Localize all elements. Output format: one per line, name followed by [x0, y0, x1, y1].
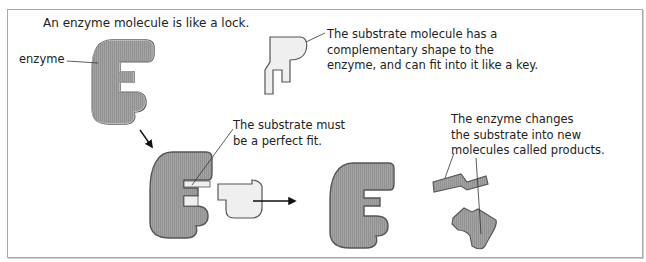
substrate-leader-line	[306, 33, 325, 42]
substrate-line-1: The substrate molecule has a	[327, 27, 538, 43]
enzyme-label: enzyme	[19, 52, 64, 68]
diagram-title: An enzyme molecule is like a lock.	[43, 16, 249, 32]
product-shape-2	[452, 208, 496, 249]
perfect-fit-description: The substrate must be a perfect fit.	[233, 118, 345, 149]
products-line-2: the substrate into new	[451, 128, 605, 144]
enzyme-substrate-complex	[150, 152, 262, 238]
enzyme-shape-1	[92, 40, 154, 124]
enzyme-shape-2	[330, 163, 394, 248]
substrate-description: The substrate molecule has a complementa…	[327, 27, 538, 74]
substrate-line-3: enzyme, and can fit into it like a key.	[327, 58, 538, 74]
perfect-fit-line-2: be a perfect fit.	[233, 134, 345, 150]
arrow-diagonal-icon	[140, 130, 152, 147]
substrate-line-2: complementary shape to the	[327, 43, 538, 59]
products-line-3: molecules called products.	[451, 143, 605, 159]
perfect-fit-line-1: The substrate must	[233, 118, 345, 134]
product-shape-1	[433, 174, 488, 192]
products-description: The enzyme changes the substrate into ne…	[451, 112, 605, 159]
products-line-1: The enzyme changes	[451, 112, 605, 128]
substrate-shape	[265, 37, 307, 94]
